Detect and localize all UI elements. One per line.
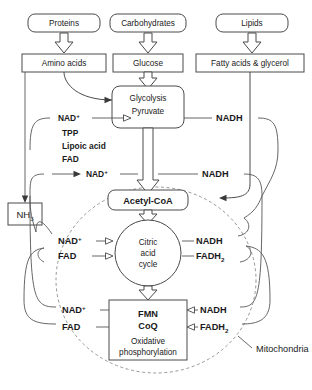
node-oxphos-label-line2: phosphorylation [119, 348, 177, 357]
mitochondria-label: Mitochondria [256, 344, 309, 354]
node-oxphos-fmn-label: FMN [138, 309, 158, 319]
label-oxphos-fad: FAD [62, 322, 81, 332]
node-acetyl-coa-label: Acetyl-CoA [123, 196, 173, 206]
label-oxphos-fadh2: FADH2 [200, 322, 229, 334]
node-fatty-acids-label: Fatty acids & glycerol [211, 59, 289, 68]
node-citric-label-line1: Citric [139, 238, 158, 247]
node-amino-acids-label: Amino acids [42, 59, 87, 68]
metabolism-diagram: Mitochondria Proteins Carbohydrates Lipi… [0, 0, 312, 390]
node-citric-label-line2: acid [140, 249, 155, 258]
label-citric-fad: FAD [58, 251, 77, 261]
label-cofactor-lipoic-acid: Lipoic acid [62, 141, 106, 151]
label-oxphos-nadh: NADH [200, 305, 227, 315]
node-citric-label-line3: cycle [139, 260, 158, 269]
label-citric-nadh: NADH [196, 236, 223, 246]
label-citric-fadh2: FADH2 [196, 251, 225, 263]
node-glucose-label: Glucose [133, 59, 163, 68]
label-cofactor-fad: FAD [62, 154, 79, 164]
label-cofactor-tpp: TPP [62, 128, 79, 138]
label-glycolysis-nadh: NADH [216, 113, 243, 123]
node-lipids-label: Lipids [241, 19, 262, 28]
node-proteins-label: Proteins [49, 19, 79, 28]
node-pyruvate-label: Pyruvate [132, 107, 165, 116]
node-oxphos-label-line1: Oxidative [131, 337, 166, 346]
node-carbohydrates-label: Carbohydrates [121, 19, 175, 28]
node-glycolysis-label: Glycolysis [130, 94, 167, 103]
node-oxphos-coq-label: CoQ [138, 321, 157, 331]
label-pyruvate-nadh: NADH [202, 169, 229, 179]
